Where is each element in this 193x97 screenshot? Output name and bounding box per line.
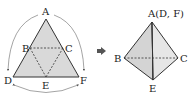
folding-diagram: A B C D E F A(D, F) B C E: [0, 0, 193, 97]
tetrahedron: A(D, F) B C E: [114, 8, 188, 94]
tetra-label-c: C: [180, 53, 188, 64]
tetra-label-b: B: [114, 53, 121, 64]
vertex-label-b: B: [22, 43, 29, 54]
vertex-label-e: E: [42, 80, 49, 91]
vertex-label-f: F: [80, 75, 87, 86]
vertex-label-d: D: [4, 75, 12, 86]
apex-label: A(D, F): [147, 8, 184, 19]
vertex-label-c: C: [65, 43, 73, 54]
right-arrow-icon: [97, 47, 106, 55]
tetra-label-e: E: [149, 83, 156, 94]
triangle-net: A B C D E F: [4, 6, 87, 93]
vertex-label-a: A: [41, 6, 50, 17]
